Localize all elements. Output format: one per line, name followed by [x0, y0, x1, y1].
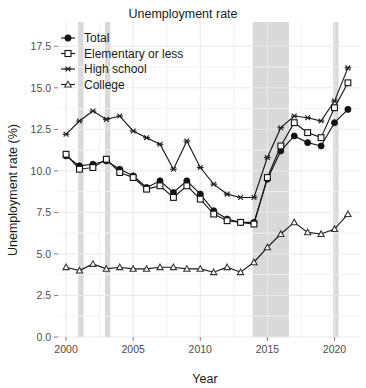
- chart-container: 0.02.55.07.510.012.515.017.5 20002005201…: [0, 0, 366, 388]
- data-point-marker: [318, 143, 324, 149]
- data-point-marker: [184, 183, 190, 189]
- legend-label: College: [84, 78, 125, 92]
- data-point-marker: [332, 105, 338, 111]
- data-point-marker: [65, 35, 71, 41]
- data-point-marker: [90, 165, 96, 171]
- data-point-marker: [345, 106, 351, 112]
- data-point-marker: [305, 130, 311, 136]
- data-point-marker: [211, 211, 217, 217]
- data-point-marker: [144, 186, 150, 192]
- y-tick-label: 0.0: [36, 331, 51, 343]
- data-point-marker: [77, 166, 83, 172]
- data-point-marker: [331, 120, 337, 126]
- x-tick-label: 2000: [54, 343, 78, 355]
- y-tick-label: 2.5: [36, 289, 51, 301]
- data-point-marker: [278, 143, 284, 149]
- data-point-marker: [224, 218, 230, 224]
- data-point-marker: [251, 221, 257, 227]
- data-point-marker: [264, 175, 270, 181]
- data-point-marker: [305, 140, 311, 146]
- legend-label: Total: [84, 31, 109, 45]
- data-point-marker: [65, 51, 71, 57]
- y-tick-label: 7.5: [36, 206, 51, 218]
- data-point-marker: [130, 175, 136, 181]
- legend-label: High school: [84, 62, 147, 76]
- data-point-marker: [157, 183, 163, 189]
- data-point-marker: [291, 120, 297, 126]
- data-point-marker: [345, 80, 351, 86]
- x-tick-label: 2020: [323, 343, 347, 355]
- chart-title: Unemployment rate: [128, 7, 237, 21]
- legend-label: Elementary or less: [84, 47, 183, 61]
- data-point-marker: [291, 133, 297, 139]
- data-point-marker: [63, 151, 69, 157]
- y-tick-label: 15.0: [31, 82, 52, 94]
- unemployment-rate-line-chart: 0.02.55.07.510.012.515.017.5 20002005201…: [0, 0, 366, 388]
- y-tick-label: 5.0: [36, 248, 51, 260]
- data-point-marker: [318, 135, 324, 141]
- x-tick-label: 2005: [121, 343, 145, 355]
- data-point-marker: [238, 219, 244, 225]
- x-tick-label: 2010: [189, 343, 213, 355]
- x-tick-label: 2015: [256, 343, 280, 355]
- data-point-marker: [197, 196, 203, 202]
- data-point-marker: [117, 170, 123, 176]
- y-tick-label: 10.0: [31, 165, 52, 177]
- data-point-marker: [171, 195, 177, 201]
- y-tick-label: 12.5: [31, 123, 52, 135]
- y-tick-label: 17.5: [31, 40, 52, 52]
- data-point-marker: [103, 156, 109, 162]
- shaded-band: [78, 22, 83, 337]
- y-axis-title: Unemployment rate (%): [6, 124, 20, 256]
- shaded-band: [333, 22, 338, 337]
- x-axis-title: Year: [192, 372, 217, 386]
